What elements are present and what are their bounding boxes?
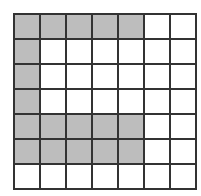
empty-cell xyxy=(41,40,67,65)
empty-cell xyxy=(67,165,93,190)
shaded-cell xyxy=(15,90,41,115)
shaded-cell xyxy=(93,15,119,40)
shaded-cell xyxy=(93,140,119,165)
shaded-cell xyxy=(15,65,41,90)
empty-cell xyxy=(119,65,145,90)
empty-cell xyxy=(145,90,171,115)
empty-cell xyxy=(93,90,119,115)
shaded-cell xyxy=(67,15,93,40)
empty-cell xyxy=(67,90,93,115)
empty-cell xyxy=(145,40,171,65)
empty-cell xyxy=(171,90,197,115)
empty-cell xyxy=(119,90,145,115)
empty-cell xyxy=(93,65,119,90)
empty-cell xyxy=(171,165,197,190)
empty-cell xyxy=(171,40,197,65)
shaded-cell xyxy=(15,140,41,165)
empty-cell xyxy=(93,40,119,65)
empty-cell xyxy=(67,40,93,65)
shaded-cell xyxy=(119,115,145,140)
shaded-cell xyxy=(15,40,41,65)
empty-cell xyxy=(41,165,67,190)
empty-cell xyxy=(171,115,197,140)
shaded-cell xyxy=(93,115,119,140)
shaded-cell xyxy=(67,140,93,165)
shaded-cell xyxy=(41,140,67,165)
empty-cell xyxy=(145,140,171,165)
empty-cell xyxy=(145,65,171,90)
shaded-cell xyxy=(119,140,145,165)
shaded-grid xyxy=(13,13,197,190)
empty-cell xyxy=(145,15,171,40)
empty-cell xyxy=(67,65,93,90)
shaded-cell xyxy=(67,115,93,140)
empty-cell xyxy=(171,65,197,90)
empty-cell xyxy=(15,165,41,190)
empty-cell xyxy=(93,165,119,190)
empty-cell xyxy=(41,65,67,90)
empty-cell xyxy=(119,40,145,65)
shaded-cell xyxy=(15,15,41,40)
shaded-cell xyxy=(119,15,145,40)
empty-cell xyxy=(171,140,197,165)
empty-cell xyxy=(119,165,145,190)
shaded-cell xyxy=(41,15,67,40)
shaded-cell xyxy=(41,115,67,140)
empty-cell xyxy=(171,15,197,40)
empty-cell xyxy=(41,90,67,115)
shaded-cell xyxy=(15,115,41,140)
empty-cell xyxy=(145,165,171,190)
empty-cell xyxy=(145,115,171,140)
